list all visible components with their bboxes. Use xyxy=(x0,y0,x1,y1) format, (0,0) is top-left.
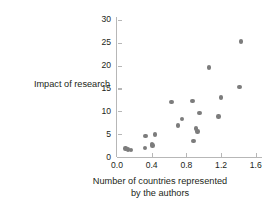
y-axis-tick-label: 30 xyxy=(91,14,111,24)
y-axis-tick xyxy=(118,134,123,135)
x-axis-tick xyxy=(152,153,153,158)
y-axis-tick xyxy=(118,66,123,67)
y-axis-tick-label: 5 xyxy=(91,129,111,139)
data-point xyxy=(143,146,147,150)
x-axis-tick-label: 1.2 xyxy=(209,160,233,170)
y-axis-tick-label: 10 xyxy=(91,106,111,116)
data-point xyxy=(195,129,199,133)
x-axis-line xyxy=(117,157,262,158)
x-axis-tick-label: 0.8 xyxy=(174,160,198,170)
x-axis-title: Number of countries represented by the a… xyxy=(60,176,260,199)
y-axis-tick xyxy=(118,20,123,21)
data-point xyxy=(191,139,195,143)
scatter-chart-figure: Impact of research 0510152025300.00.40.8… xyxy=(0,0,271,209)
data-point xyxy=(197,111,201,115)
data-point xyxy=(129,148,133,152)
data-point xyxy=(190,99,194,103)
data-point xyxy=(237,85,241,89)
y-axis-line xyxy=(116,17,117,157)
y-axis-tick-label: 25 xyxy=(91,37,111,47)
data-point xyxy=(219,95,223,99)
data-point xyxy=(143,134,147,138)
y-axis-tick xyxy=(118,43,123,44)
data-point xyxy=(216,114,220,118)
y-axis-tick-label: 15 xyxy=(91,83,111,93)
y-axis-tick xyxy=(118,88,123,89)
data-point xyxy=(176,123,180,127)
data-point xyxy=(207,65,211,69)
x-axis-tick xyxy=(186,153,187,158)
x-axis-tick-label: 1.6 xyxy=(244,160,268,170)
y-axis-tick xyxy=(118,111,123,112)
data-point xyxy=(239,39,243,43)
y-axis-tick-label: 20 xyxy=(91,60,111,70)
data-point xyxy=(169,100,173,104)
x-axis-tick xyxy=(256,153,257,158)
x-axis-tick xyxy=(221,153,222,158)
x-axis-tick-label: 0.4 xyxy=(140,160,164,170)
x-axis-tick-label: 0.0 xyxy=(105,160,129,170)
data-point xyxy=(153,132,157,136)
data-point xyxy=(150,143,154,147)
data-point xyxy=(180,117,184,121)
x-axis-title-line-2: by the authors xyxy=(60,188,260,200)
x-axis-title-line-1: Number of countries represented xyxy=(93,176,227,186)
